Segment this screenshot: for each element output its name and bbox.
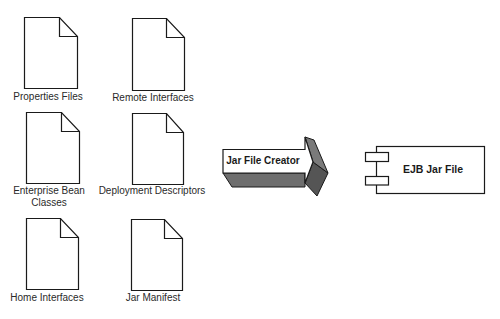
document-icon-home-interfaces bbox=[27, 219, 79, 290]
label-remote-interfaces: Remote Interfaces bbox=[112, 92, 194, 104]
label-jar-manifest: Jar Manifest bbox=[126, 292, 180, 304]
component-port-bottom bbox=[366, 177, 389, 186]
label-jar-file-creator: Jar File Creator bbox=[226, 155, 299, 167]
label-enterprise-bean-classes-line1: Enterprise Bean bbox=[13, 185, 85, 197]
label-home-interfaces: Home Interfaces bbox=[10, 292, 83, 304]
label-enterprise-bean-classes-line2: Classes bbox=[31, 197, 67, 209]
document-icon-deployment-descriptors bbox=[133, 114, 184, 185]
document-icon-enterprise-bean-classes bbox=[27, 113, 80, 184]
document-icon-jar-manifest bbox=[132, 220, 183, 291]
label-properties-files: Properties Files bbox=[13, 91, 82, 103]
label-ejb-jar-file: EJB Jar File bbox=[403, 163, 463, 175]
document-icon-properties-files bbox=[25, 18, 78, 89]
label-deployment-descriptors: Deployment Descriptors bbox=[99, 185, 206, 197]
component-port-top bbox=[366, 153, 389, 162]
document-icon-remote-interfaces bbox=[133, 19, 185, 91]
